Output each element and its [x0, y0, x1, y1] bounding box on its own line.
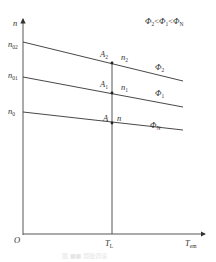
label-n: n	[117, 113, 121, 123]
tick-n02: n02	[8, 39, 18, 50]
tick-n01: n01	[8, 70, 18, 81]
label-a1: A1	[99, 79, 108, 90]
label-phi2: Φ2	[155, 62, 164, 73]
y-axis-label: n	[13, 18, 17, 28]
flux-inequality: Φ2<Φ1<ΦN	[145, 16, 184, 27]
label-n1: n1	[121, 82, 128, 93]
tick-n0: n0	[8, 106, 15, 117]
point-a1	[111, 92, 114, 95]
point-a2	[111, 62, 114, 65]
label-a2: A2	[99, 49, 108, 60]
speed-torque-diagram: n O Tem n02 n01 n0 TL A2 n2 Φ2 A1 n1 Φ1 …	[0, 0, 216, 262]
origin-label: O	[14, 235, 20, 245]
label-a: A	[102, 113, 109, 123]
tick-tl: TL	[105, 238, 114, 249]
point-a	[111, 122, 114, 125]
label-phi1: Φ1	[155, 88, 164, 99]
x-axis-label: Tem	[185, 238, 197, 249]
figure-caption: 图 ■■ 弱磁调速	[62, 252, 107, 260]
label-n2: n2	[121, 52, 128, 63]
label-phiN: ΦN	[150, 120, 160, 131]
